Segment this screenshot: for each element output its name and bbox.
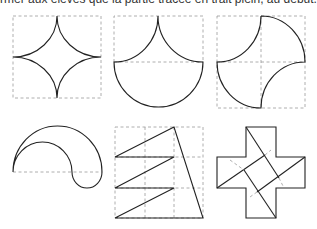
figure-5 (115, 127, 203, 218)
geometric-figures (0, 0, 317, 229)
figure-2 (114, 16, 203, 107)
figure-4 (13, 126, 102, 188)
figure-3 (217, 16, 305, 108)
figure-6 (217, 127, 305, 218)
figure-1 (13, 16, 101, 98)
